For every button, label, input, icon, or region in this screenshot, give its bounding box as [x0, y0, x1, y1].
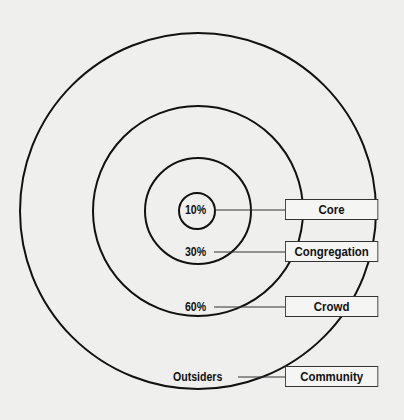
label-box-core: Core	[285, 199, 378, 220]
outsiders-label: Outsiders	[173, 370, 222, 384]
percent-label-core: 10%	[185, 203, 206, 217]
label-box-crowd: Crowd	[285, 296, 378, 317]
label-box-community: Community	[285, 366, 378, 387]
label-box-congregation: Congregation	[285, 241, 378, 262]
percent-label-crowd: 60%	[185, 300, 206, 314]
percent-label-congregation: 30%	[185, 245, 206, 259]
